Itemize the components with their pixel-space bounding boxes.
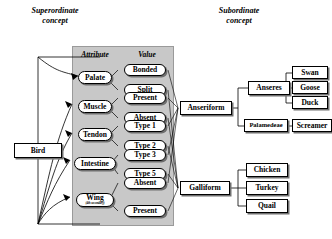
node-species-goose[interactable]: Goose	[292, 81, 328, 94]
node-label: Present	[133, 207, 157, 215]
node-value-absent-wing[interactable]: Absent	[124, 177, 166, 189]
column-label-attribute: Attribute	[72, 50, 118, 59]
node-label: Intestine	[81, 160, 109, 168]
node-label: Galliform	[189, 184, 221, 192]
node-bird[interactable]: Bird	[14, 143, 62, 158]
node-label: Quail	[258, 202, 276, 210]
node-attribute-muscle[interactable]: Muscle	[78, 100, 112, 113]
node-label: Duck	[301, 99, 318, 107]
node-value-present-muscle[interactable]: Present	[124, 92, 166, 104]
node-label: Absent	[134, 179, 157, 187]
node-species-quail[interactable]: Quail	[246, 199, 288, 213]
node-suborder-anseres[interactable]: Anseres	[248, 81, 290, 95]
node-label: Present	[133, 94, 157, 102]
node-label: Tendon	[83, 131, 107, 139]
node-species-turkey[interactable]: Turkey	[246, 181, 288, 195]
node-label: Chicken	[254, 166, 281, 174]
node-order-galliform[interactable]: Galliform	[180, 181, 230, 195]
node-sublabel: (4th secondary)	[86, 202, 105, 205]
node-label: Type 1	[134, 122, 155, 130]
node-value-present-wing[interactable]: Present	[124, 205, 166, 217]
node-label: Muscle	[84, 103, 107, 111]
node-label: Goose	[300, 84, 320, 92]
node-label: Type 3	[134, 151, 155, 159]
node-attribute-tendon[interactable]: Tendon	[78, 128, 112, 141]
subordinate-heading: Subordinate concept	[196, 6, 282, 25]
node-bird-label: Bird	[31, 147, 46, 155]
node-label: Screamer	[297, 122, 328, 130]
node-species-screamer[interactable]: Screamer	[292, 119, 332, 132]
node-species-duck[interactable]: Duck	[292, 96, 328, 109]
node-attribute-palate[interactable]: Palate	[78, 71, 112, 84]
diagram-canvas: Superordinate concept Subordinate concep…	[0, 0, 332, 239]
node-label: Swan	[301, 69, 319, 77]
node-label: Palate	[85, 74, 105, 82]
column-label-value: Value	[126, 50, 168, 59]
superordinate-heading: Superordinate concept	[12, 6, 98, 25]
node-label: Turkey	[255, 184, 278, 192]
node-suborder-palamedeae[interactable]: Palamedeae	[244, 119, 288, 132]
node-label: Bonded	[133, 66, 158, 74]
node-attribute-intestine[interactable]: Intestine	[74, 157, 116, 170]
node-value-type3[interactable]: Type 3	[124, 149, 166, 161]
node-label: Anseriform	[187, 104, 224, 112]
node-attribute-wing[interactable]: Wing (4th secondary)	[76, 193, 114, 207]
node-order-anseriform[interactable]: Anseriform	[180, 101, 232, 115]
node-species-chicken[interactable]: Chicken	[246, 163, 288, 177]
node-label: Palamedeae	[249, 122, 282, 129]
node-value-bonded[interactable]: Bonded	[124, 64, 166, 76]
node-value-type1[interactable]: Type 1	[124, 120, 166, 132]
node-label: Anseres	[256, 84, 281, 92]
node-species-swan[interactable]: Swan	[292, 66, 328, 79]
